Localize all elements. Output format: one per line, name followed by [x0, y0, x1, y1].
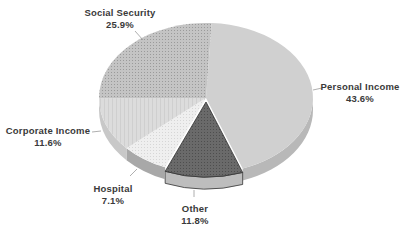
label-percent: 7.1% [83, 195, 143, 207]
label-name: Personal Income [315, 81, 405, 93]
label-hospital: Hospital 7.1% [83, 183, 143, 207]
label-corporate-income: Corporate Income 11.6% [0, 125, 96, 149]
leader-line-social [135, 31, 143, 40]
leader-line-hospital [130, 169, 137, 176]
label-percent: 11.6% [0, 137, 96, 149]
pie-chart [0, 0, 405, 234]
label-name: Corporate Income [0, 125, 96, 137]
label-name: Social Security [55, 7, 185, 19]
label-social-security: Social Security 25.9% [55, 7, 185, 31]
pie-slice-social-security [99, 23, 212, 98]
label-personal-income: Personal Income 43.6% [315, 81, 405, 105]
label-percent: 43.6% [315, 93, 405, 105]
label-name: Other [165, 203, 225, 215]
label-percent: 25.9% [55, 19, 185, 31]
label-name: Hospital [83, 183, 143, 195]
label-percent: 11.8% [165, 215, 225, 227]
label-other: Other 11.8% [165, 203, 225, 227]
